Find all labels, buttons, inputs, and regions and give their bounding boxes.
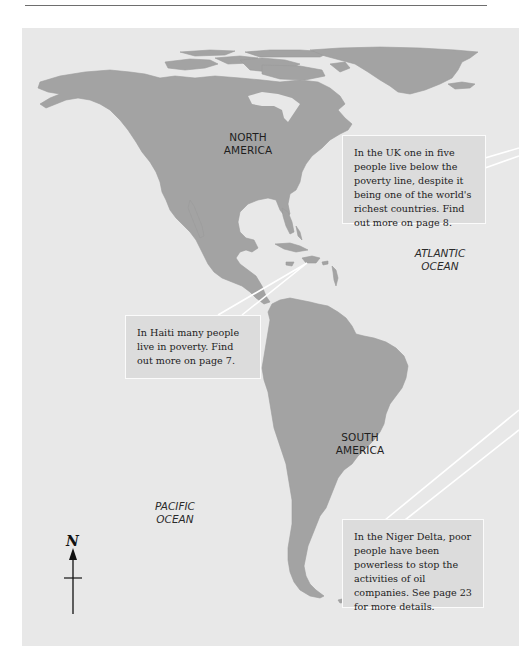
pacific-ocean-label: PACIFIC OCEAN <box>145 500 205 526</box>
haiti-callout-text: In Haiti many people live in poverty. Fi… <box>137 327 239 366</box>
iceland <box>448 82 475 89</box>
top-rule <box>25 5 487 6</box>
niger-callout: In the Niger Delta, poor people have bee… <box>342 519 484 608</box>
north-america-label-line2: AMERICA <box>218 144 278 157</box>
niger-callout-text: In the Niger Delta, poor people have bee… <box>354 531 472 612</box>
florida <box>282 208 294 234</box>
niger-leader <box>385 410 519 520</box>
compass-north-label: N <box>66 533 79 549</box>
uk-callout-text: In the UK one in five people live below … <box>354 147 471 228</box>
uk-leader-lower <box>485 156 519 168</box>
north-america-label: NORTH AMERICA <box>218 131 278 157</box>
uk-leader <box>485 148 519 158</box>
north-america-landmass <box>38 70 352 304</box>
south-america-label-line1: SOUTH <box>330 431 390 444</box>
niger-leader-lower <box>405 430 519 520</box>
north-america-label-line1: NORTH <box>218 131 278 144</box>
haiti-callout: In Haiti many people live in poverty. Fi… <box>125 315 261 379</box>
uk-callout: In the UK one in five people live below … <box>342 135 486 224</box>
atlantic-ocean-label-line1: ATLANTIC <box>405 247 475 260</box>
north-arrow-icon <box>64 548 82 614</box>
south-america-label: SOUTH AMERICA <box>330 431 390 457</box>
pacific-ocean-label-line1: PACIFIC <box>145 500 205 513</box>
pacific-ocean-label-line2: OCEAN <box>145 513 205 526</box>
south-america-label-line2: AMERICA <box>330 444 390 457</box>
atlantic-ocean-label-line2: OCEAN <box>405 260 475 273</box>
atlantic-ocean-label: ATLANTIC OCEAN <box>405 247 475 273</box>
